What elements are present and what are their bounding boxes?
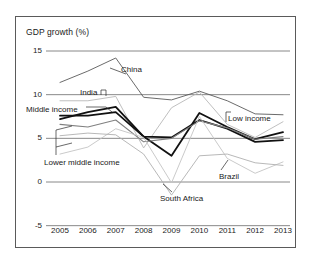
x-axis-tick-label: 2012	[240, 226, 270, 235]
annotation-leader	[163, 184, 172, 192]
annotation-leader	[221, 160, 228, 170]
series-line-china	[60, 58, 283, 115]
x-axis-tick-label: 2007	[101, 226, 131, 235]
y-axis-tick-label: 5	[20, 133, 42, 142]
series-label-lower-middle-income: Lower middle income	[44, 158, 120, 167]
x-axis-tick-label: 2006	[73, 226, 103, 235]
y-axis-tick-label: 0	[20, 177, 42, 186]
series-label-india: India	[80, 88, 97, 97]
chart-plot	[0, 0, 312, 263]
series-line-brazil	[60, 117, 283, 183]
series-label-china: China	[121, 65, 142, 74]
annotation-leader	[101, 90, 106, 96]
y-axis-tick-label: 10	[20, 90, 42, 99]
x-axis-tick-label: 2009	[157, 226, 187, 235]
series-label-south-africa: South Africa	[160, 194, 203, 203]
x-axis-tick-label: 2005	[45, 226, 75, 235]
series-label-brazil: Brazil	[219, 172, 239, 181]
y-axis-tick-label: -5	[20, 221, 42, 230]
x-axis-tick-label: 2010	[184, 226, 214, 235]
x-axis-tick-label: 2011	[212, 226, 242, 235]
y-axis-tick-label: 15	[20, 46, 42, 55]
series-label-low-income: Low income	[228, 114, 271, 123]
annotation-leader	[56, 126, 72, 155]
series-label-middle-income: Middle income	[26, 105, 78, 114]
x-axis-tick-label: 2013	[268, 226, 298, 235]
chart-root: GDP growth (%) ChinaIndiaMiddle incomeLo…	[0, 0, 312, 263]
x-axis-tick-label: 2008	[129, 226, 159, 235]
